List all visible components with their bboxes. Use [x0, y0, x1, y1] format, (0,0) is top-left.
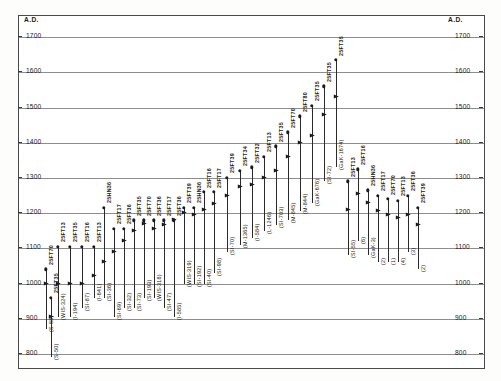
- mean-date-marker: [80, 281, 85, 285]
- date-bar: [348, 181, 349, 255]
- site-label: 25FT35: [136, 196, 142, 216]
- upper-bound-marker: [386, 197, 389, 200]
- lab-number-label: (SI-69): [116, 302, 122, 320]
- mean-date-marker: [212, 202, 217, 206]
- site-label: 25FT35: [278, 122, 284, 142]
- date-bar: [104, 208, 105, 298]
- date-bar: [408, 196, 409, 252]
- lab-number-label: (2): [380, 258, 386, 265]
- lab-number-label: (4): [400, 258, 406, 265]
- date-bar: [94, 247, 95, 298]
- site-label: 25FT13: [266, 132, 272, 152]
- upper-bound-marker: [416, 206, 419, 209]
- upper-bound-marker: [152, 218, 155, 221]
- mean-date-marker: [112, 249, 117, 253]
- upper-bound-marker: [250, 166, 253, 169]
- lab-number-label: (L-1246): [266, 211, 272, 233]
- lab-number-label: (M-1365): [242, 224, 248, 248]
- tickmark-right-800: [479, 353, 483, 354]
- site-label: 25FT35: [326, 62, 332, 82]
- date-bar: [227, 178, 228, 252]
- lab-number-label: (M-845): [290, 203, 296, 224]
- mean-date-marker: [396, 216, 401, 220]
- mean-date-marker: [192, 212, 197, 216]
- mean-date-marker: [346, 207, 351, 211]
- tick-left-1000: 1000: [26, 279, 41, 286]
- upper-bound-marker: [49, 296, 52, 299]
- lab-number-label: (GaK-676): [314, 178, 320, 205]
- mean-date-marker: [322, 112, 327, 116]
- upper-bound-marker: [112, 227, 115, 230]
- site-label: 25FT39: [229, 153, 235, 173]
- tick-left-1500: 1500: [26, 103, 41, 110]
- mean-date-marker: [376, 209, 381, 213]
- tickmark-right-1700: [479, 36, 483, 37]
- site-label: 25FT80: [302, 92, 308, 112]
- site-label: 25FT39: [186, 183, 192, 203]
- upper-bound-marker: [192, 206, 195, 209]
- mean-date-marker: [92, 274, 97, 278]
- mean-date-marker: [356, 191, 361, 195]
- tick-right-1100: 1100: [455, 243, 470, 250]
- upper-bound-marker: [102, 206, 105, 209]
- upper-bound-marker: [162, 218, 165, 221]
- date-bar: [300, 116, 301, 211]
- mean-date-marker: [310, 133, 315, 137]
- gridline-1000: [19, 284, 484, 285]
- lab-number-label: (SI-70): [229, 237, 235, 255]
- upper-bound-marker: [286, 130, 289, 133]
- site-label: 25FT16: [84, 222, 90, 242]
- lab-number-label: (SI-32): [126, 293, 132, 311]
- upper-bound-marker: [122, 227, 125, 230]
- date-bar: [204, 192, 205, 284]
- mean-date-marker: [152, 226, 157, 230]
- site-label: 25FT13: [96, 222, 102, 242]
- date-bar: [114, 229, 115, 317]
- left-axis-title: A.D.: [24, 16, 39, 23]
- site-label: 25FT36: [156, 196, 162, 216]
- upper-bound-marker: [225, 176, 228, 179]
- tick-left-1400: 1400: [26, 138, 41, 145]
- gridline-800: [19, 354, 484, 355]
- site-label: 25FT36: [410, 171, 416, 191]
- tickmark-right-1400: [479, 142, 483, 143]
- site-label: 25FT70: [290, 108, 296, 128]
- tick-left-900: 900: [26, 314, 38, 321]
- mean-date-marker: [162, 223, 167, 227]
- site-label: 25FT17: [380, 171, 386, 191]
- upper-bound-marker: [212, 190, 215, 193]
- mean-date-marker: [286, 154, 291, 158]
- tickmark-left-1200: [18, 212, 22, 213]
- mean-date-marker: [225, 193, 230, 197]
- date-bar: [418, 208, 419, 270]
- lab-number-label: (I-584): [254, 223, 260, 241]
- tick-left-1200: 1200: [26, 208, 41, 215]
- mean-date-marker: [262, 175, 267, 179]
- tickmark-left-1000: [18, 283, 22, 284]
- tick-right-1000: 1000: [455, 279, 470, 286]
- mean-date-marker: [122, 239, 127, 243]
- site-label: 25FT35: [72, 222, 78, 242]
- tick-right-1700: 1700: [455, 32, 470, 39]
- mean-date-marker: [68, 281, 73, 285]
- site-label: 25HN36: [106, 182, 112, 203]
- mean-date-marker: [172, 218, 177, 222]
- mean-date-marker: [406, 212, 411, 216]
- date-bar: [134, 220, 135, 308]
- site-label: 25FT16: [360, 145, 366, 165]
- gridline-1400: [19, 143, 484, 144]
- tickmark-right-1300: [479, 177, 483, 178]
- date-bar: [46, 269, 47, 329]
- date-bar: [276, 146, 277, 225]
- upper-bound-marker: [262, 155, 265, 158]
- tick-left-1100: 1100: [26, 243, 41, 250]
- lab-number-label: (SI-193): [146, 279, 152, 300]
- date-bar: [312, 106, 313, 203]
- date-bar: [336, 60, 337, 167]
- tick-left-800: 800: [26, 349, 38, 356]
- lab-number-label: (S-50): [53, 344, 59, 360]
- date-bar: [51, 298, 52, 358]
- mean-date-marker: [49, 314, 54, 318]
- site-label: 25FT35: [338, 35, 344, 55]
- lab-number-label: (I-585): [176, 302, 182, 320]
